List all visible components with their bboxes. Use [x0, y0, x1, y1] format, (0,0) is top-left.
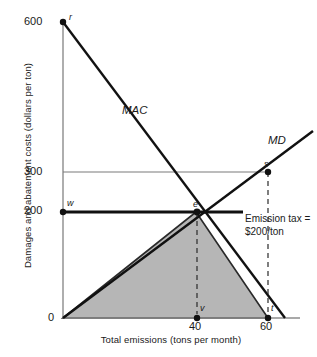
emission-tax-annotation-line2: $200/ton: [245, 225, 310, 238]
point-label-w: w: [67, 198, 74, 208]
emission-tax-annotation: Emission tax = $200/ton: [245, 212, 310, 238]
point-marker-r: [60, 19, 66, 25]
point-marker-w: [60, 209, 66, 215]
point-marker-s: [265, 169, 271, 175]
point-label-r: r: [69, 12, 72, 22]
y-tick-label-0: 0: [48, 311, 54, 323]
y-tick-label-200: 200: [24, 204, 42, 216]
md-curve-label: MD: [268, 134, 286, 146]
point-label-v: v: [200, 303, 205, 313]
y-tick-label-300: 300: [24, 165, 42, 177]
point-label-e: e: [193, 199, 198, 209]
emission-tax-annotation-line1: Emission tax =: [245, 212, 310, 225]
shaded-region-welfare: [63, 212, 268, 318]
x-tick-label-60: 60: [260, 320, 272, 332]
point-label-s: s: [264, 159, 269, 169]
x-axis-title: Total emissions (tons per month): [63, 334, 279, 345]
chart-figure: Damages and abatement costs (dollars per…: [0, 0, 317, 357]
point-label-t: t: [271, 303, 274, 313]
mac-curve-label: MAC: [122, 104, 148, 116]
y-tick-label-600: 600: [24, 15, 42, 27]
chart-plot-area: [0, 0, 317, 357]
x-tick-label-40: 40: [189, 320, 201, 332]
point-marker-e: [194, 209, 201, 216]
